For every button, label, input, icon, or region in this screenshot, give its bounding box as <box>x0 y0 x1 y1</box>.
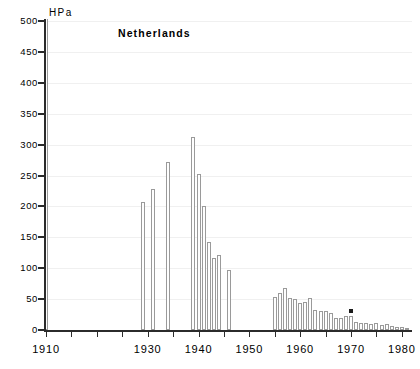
x-tick-mark <box>97 332 98 337</box>
y-tick-label: 450 <box>4 47 38 56</box>
bar <box>288 298 292 330</box>
y-tick-label: 250 <box>4 171 38 180</box>
bar <box>344 316 348 330</box>
y-tick: 350 <box>0 109 38 119</box>
bar <box>191 137 195 330</box>
y-tick-label: 150 <box>4 232 38 241</box>
gridline <box>46 145 412 146</box>
bar <box>217 255 221 330</box>
x-tick-mark <box>376 332 377 337</box>
bar <box>151 189 155 330</box>
y-tick: 200 <box>0 201 38 211</box>
gridline <box>46 268 412 269</box>
gridline <box>46 237 412 238</box>
x-tick-mark <box>71 332 72 337</box>
gridline <box>46 21 412 22</box>
bar <box>227 270 231 330</box>
x-tick-mark <box>122 332 123 337</box>
bar <box>339 318 343 330</box>
gridline <box>46 206 412 207</box>
asterisk-marker-icon <box>349 309 353 313</box>
x-tick-mark <box>351 332 352 337</box>
x-tick-label: 1910 <box>32 343 60 355</box>
y-tick: 450 <box>0 47 38 57</box>
bar <box>166 162 170 330</box>
bar <box>298 303 302 330</box>
bar <box>319 311 323 330</box>
gridline <box>46 83 412 84</box>
y-tick-label: 500 <box>4 16 38 25</box>
x-tick-mark <box>326 332 327 337</box>
x-tick-mark <box>249 332 250 337</box>
x-tick-mark <box>199 332 200 337</box>
bar <box>354 322 358 330</box>
bar <box>212 258 216 330</box>
x-tick-label: 1980 <box>388 343 416 355</box>
bar <box>334 318 338 330</box>
y-axis-line <box>44 19 46 332</box>
x-tick-label: 1940 <box>185 343 213 355</box>
bar <box>374 323 378 330</box>
y-tick: 150 <box>0 232 38 242</box>
x-tick-mark <box>402 332 403 337</box>
bar <box>283 288 287 330</box>
x-tick-label: 1950 <box>235 343 263 355</box>
bar <box>308 298 312 330</box>
x-tick-mark <box>46 332 47 337</box>
x-tick-label: 1970 <box>337 343 365 355</box>
bar <box>202 206 206 330</box>
chart-figure: HPa Netherlands 050100150200250300350400… <box>0 0 420 369</box>
y-tick: 400 <box>0 78 38 88</box>
y-tick-label: 0 <box>4 325 38 334</box>
bar <box>359 323 363 330</box>
x-tick-label: 1930 <box>134 343 162 355</box>
bar <box>364 323 368 330</box>
chart-title: Netherlands <box>118 27 191 39</box>
y-tick-label: 400 <box>4 78 38 87</box>
x-tick-mark <box>173 332 174 337</box>
bar <box>141 202 145 330</box>
y-tick: 500 <box>0 16 38 26</box>
bar <box>197 174 201 330</box>
bar <box>207 242 211 330</box>
y-tick: 100 <box>0 263 38 273</box>
x-tick-mark <box>148 332 149 337</box>
y-tick: 0 <box>0 325 38 335</box>
y-tick: 50 <box>0 294 38 304</box>
y-tick: 250 <box>0 171 38 181</box>
bar <box>313 310 317 330</box>
bar <box>303 302 307 330</box>
y-tick-label: 200 <box>4 201 38 210</box>
bar <box>293 299 297 330</box>
gridline <box>46 176 412 177</box>
gridline <box>46 52 412 53</box>
x-tick-mark <box>300 332 301 337</box>
gridline <box>46 114 412 115</box>
bar <box>349 316 353 330</box>
y-tick: 300 <box>0 140 38 150</box>
bar <box>278 293 282 330</box>
x-tick-label: 1960 <box>286 343 314 355</box>
x-tick-mark <box>224 332 225 337</box>
bar <box>329 313 333 330</box>
x-axis-line <box>44 330 412 332</box>
y-tick-label: 100 <box>4 263 38 272</box>
bar <box>273 297 277 330</box>
bar <box>324 311 328 330</box>
y-tick-label: 350 <box>4 109 38 118</box>
y-axis-unit-label: HPa <box>49 7 73 18</box>
y-tick-label: 50 <box>4 294 38 303</box>
x-tick-mark <box>275 332 276 337</box>
y-tick-label: 300 <box>4 140 38 149</box>
